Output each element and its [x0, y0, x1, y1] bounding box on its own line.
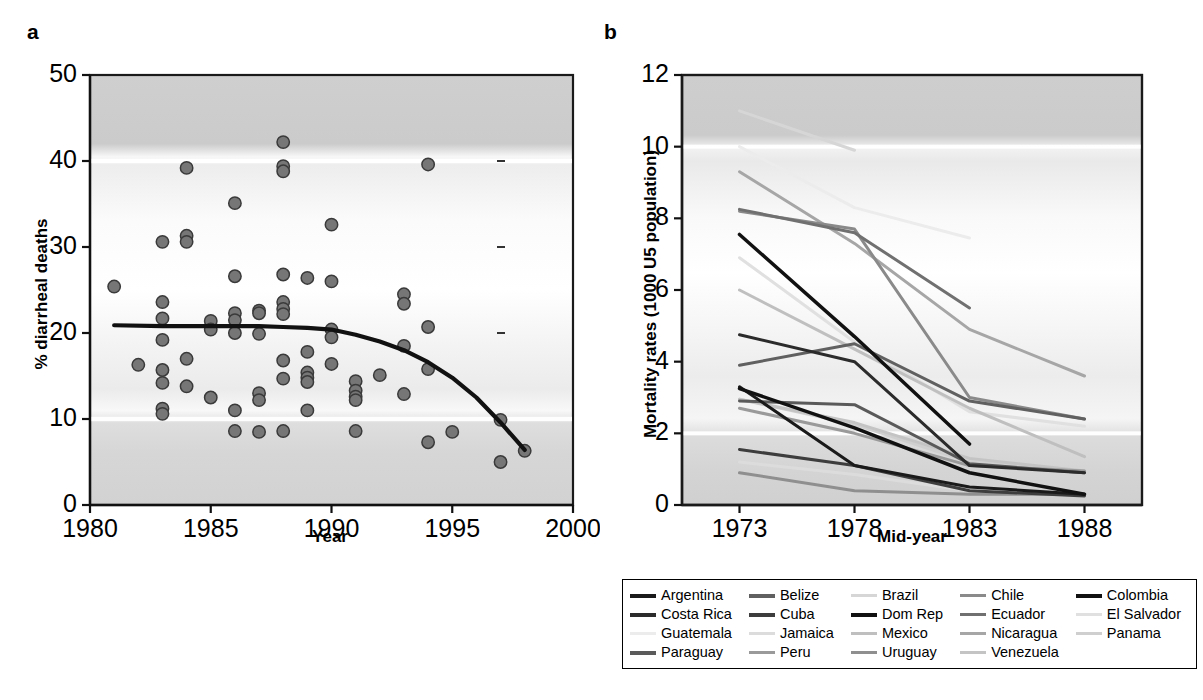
- legend-item[interactable]: Chile: [960, 586, 1067, 605]
- legend-item[interactable]: Uruguay: [851, 643, 951, 662]
- legend-item[interactable]: Paraguay: [630, 643, 740, 662]
- legend-item-label: Colombia: [1107, 588, 1168, 603]
- legend-item[interactable]: Cuba: [749, 605, 842, 624]
- legend-item-label: Guatemala: [661, 626, 732, 641]
- legend-item-label: Dom Rep: [882, 607, 943, 622]
- legend-line-swatch: [749, 651, 775, 654]
- legend-item-empty: [1076, 643, 1189, 662]
- series-legend: ArgentinaBelizeBrazilChileColombiaCosta …: [622, 579, 1197, 669]
- legend-item-label: Uruguay: [882, 645, 937, 660]
- legend-line-swatch: [1076, 594, 1102, 598]
- legend-item[interactable]: Jamaica: [749, 624, 842, 643]
- legend-line-swatch: [630, 594, 656, 598]
- panel-b-plot: 0246810121973197819831988: [600, 0, 1203, 560]
- legend-line-swatch: [749, 594, 775, 598]
- panel-a-svg: 0102030405019801985199019952000: [0, 0, 600, 560]
- panel-a-y-tick-label: 40: [49, 145, 77, 173]
- legend-line-swatch: [960, 632, 986, 635]
- legend-item-label: Chile: [991, 588, 1024, 603]
- legend-item-label: Mexico: [882, 626, 928, 641]
- legend-item-label: Paraguay: [661, 645, 723, 660]
- legend-item[interactable]: El Salvador: [1076, 605, 1189, 624]
- legend-item-label: Venezuela: [991, 645, 1059, 660]
- panel-a-y-tick-label: 20: [49, 317, 77, 345]
- legend-item[interactable]: Peru: [749, 643, 842, 662]
- legend-line-swatch: [630, 632, 656, 635]
- legend-line-swatch: [1076, 632, 1102, 635]
- legend-line-swatch: [1076, 651, 1102, 654]
- panel-a-x-tick-label: 2000: [545, 514, 600, 542]
- panel-b-x-tick-label: 1988: [1057, 514, 1113, 542]
- legend-item-label: Belize: [780, 588, 820, 603]
- legend-line-swatch: [630, 651, 656, 655]
- panel-a-y-tick-label: 30: [49, 231, 77, 259]
- legend-item-label: Jamaica: [780, 626, 834, 641]
- legend-line-swatch: [960, 613, 986, 616]
- panel-b-y-tick-label: 0: [655, 489, 669, 517]
- panel-a-y-tick-label: 0: [63, 489, 77, 517]
- panel-a-y-tick-label: 10: [49, 403, 77, 431]
- legend-item[interactable]: Costa Rica: [630, 605, 740, 624]
- panel-b-x-tick-label: 1973: [712, 514, 768, 542]
- legend-item[interactable]: Brazil: [851, 586, 951, 605]
- legend-grid: ArgentinaBelizeBrazilChileColombiaCosta …: [623, 580, 1196, 668]
- legend-item-label: Ecuador: [991, 607, 1045, 622]
- legend-line-swatch: [630, 613, 656, 617]
- panel-a-plot: 0102030405019801985199019952000: [0, 0, 600, 560]
- panel-a-y-tick-label: 50: [49, 59, 77, 87]
- legend-line-swatch: [851, 632, 877, 635]
- legend-line-swatch: [960, 651, 986, 654]
- legend-line-swatch: [851, 613, 877, 617]
- legend-item-label: Brazil: [882, 588, 918, 603]
- panel-a-y-axis-title: % diarrheal deaths: [32, 174, 52, 414]
- legend-item[interactable]: Belize: [749, 586, 842, 605]
- legend-item-label: Costa Rica: [661, 607, 732, 622]
- figure-root: a 0102030405019801985199019952000 Year %…: [0, 0, 1203, 700]
- legend-line-swatch: [749, 632, 775, 635]
- legend-item[interactable]: Panama: [1076, 624, 1189, 643]
- legend-item-label: Peru: [780, 645, 811, 660]
- panel-a-x-tick-label: 1995: [424, 514, 480, 542]
- legend-line-swatch: [851, 594, 877, 597]
- legend-item-label: Nicaragua: [991, 626, 1057, 641]
- legend-item-label: Cuba: [780, 607, 815, 622]
- legend-item[interactable]: Nicaragua: [960, 624, 1067, 643]
- panel-a-x-tick-label: 1980: [62, 514, 118, 542]
- legend-item[interactable]: Venezuela: [960, 643, 1067, 662]
- legend-item-label: Panama: [1107, 626, 1161, 641]
- legend-line-swatch: [749, 613, 775, 617]
- panel-b-y-axis-title: Mortality rates (1000 U5 population): [641, 109, 661, 479]
- panel-b-x-axis-title: Mid-year: [822, 527, 1002, 547]
- legend-item[interactable]: Argentina: [630, 586, 740, 605]
- legend-item-label: Argentina: [661, 588, 723, 603]
- legend-item[interactable]: Dom Rep: [851, 605, 951, 624]
- legend-item[interactable]: Ecuador: [960, 605, 1067, 624]
- legend-line-swatch: [851, 651, 877, 654]
- legend-item[interactable]: Colombia: [1076, 586, 1189, 605]
- legend-item[interactable]: Guatemala: [630, 624, 740, 643]
- panel-b-svg: 0246810121973197819831988: [600, 0, 1203, 560]
- panel-a-x-tick-label: 1985: [183, 514, 239, 542]
- legend-line-swatch: [1076, 613, 1102, 616]
- panel-b-y-tick-label: 12: [641, 59, 669, 87]
- legend-item-label: El Salvador: [1107, 607, 1181, 622]
- panel-a-x-axis-title: Year: [240, 527, 420, 547]
- legend-line-swatch: [960, 594, 986, 597]
- legend-item[interactable]: Mexico: [851, 624, 951, 643]
